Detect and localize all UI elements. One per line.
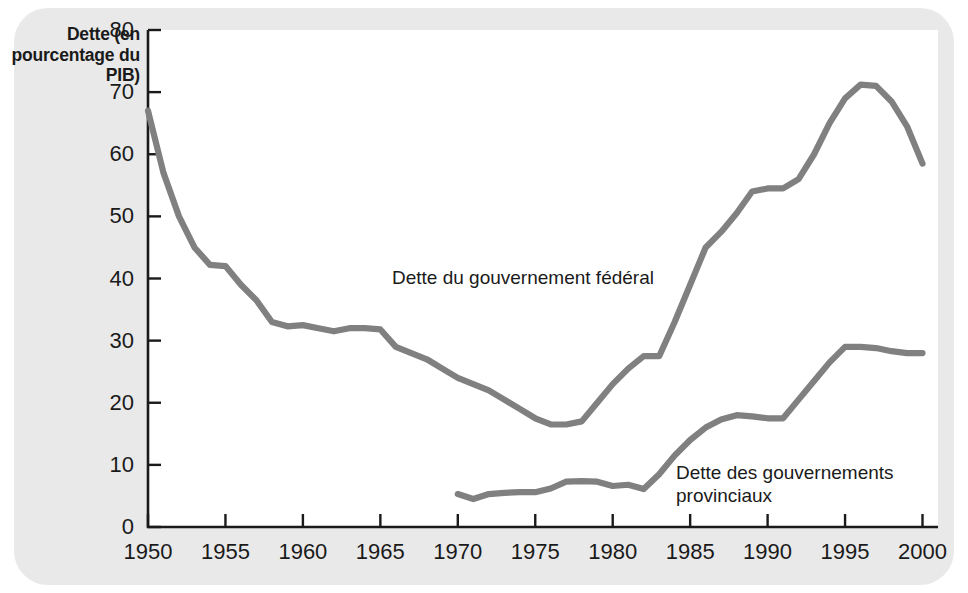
chart-figure: Dette (en pourcentage du PIB) 0102030405… [0,0,968,593]
series-lines [148,85,923,499]
series-label-federal: Dette du gouvernement fédéral [392,266,654,289]
series-line-federal [148,85,923,425]
series-label-provincial: Dette des gouvernements provinciaux [676,461,894,507]
